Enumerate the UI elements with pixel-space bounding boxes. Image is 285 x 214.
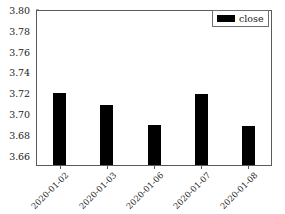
legend-label-close: close (239, 14, 264, 24)
bar (148, 125, 161, 165)
bar (100, 105, 113, 165)
x-tick-mark (201, 166, 202, 169)
legend-swatch-close (217, 15, 235, 22)
x-tick-mark (154, 166, 155, 169)
y-tick-label: 3.80 (9, 5, 30, 16)
x-tick-label: 2020-01-02 (29, 170, 70, 211)
x-tick-label: 2020-01-03 (77, 170, 118, 211)
y-tick-label: 3.76 (9, 46, 30, 57)
y-tick-label: 3.66 (9, 150, 30, 161)
y-axis: 3.803.783.763.743.723.703.683.66 (0, 0, 36, 176)
x-tick-label: 2020-01-08 (218, 170, 259, 211)
y-tick-label: 3.72 (9, 88, 30, 99)
x-tick-label: 2020-01-06 (124, 170, 165, 211)
x-tick-mark (107, 166, 108, 169)
x-tick-label: 2020-01-07 (171, 170, 212, 211)
bar (53, 93, 66, 165)
bar (242, 126, 255, 165)
x-tick-mark (248, 166, 249, 169)
y-tick-label: 3.74 (9, 67, 30, 78)
bar (195, 94, 208, 165)
legend: close (212, 10, 269, 27)
x-tick-mark (60, 166, 61, 169)
y-tick-label: 3.78 (9, 25, 30, 36)
y-tick-label: 3.68 (9, 129, 30, 140)
bar-chart-figure: 3.803.783.763.743.723.703.683.66 2020-01… (0, 0, 285, 214)
y-tick-label: 3.70 (9, 109, 30, 120)
